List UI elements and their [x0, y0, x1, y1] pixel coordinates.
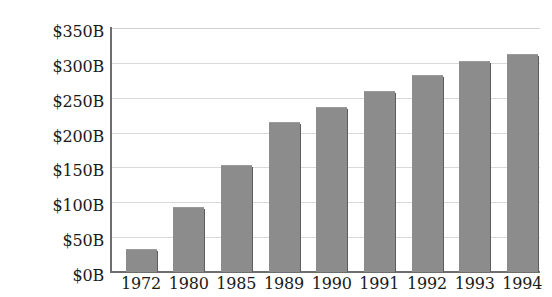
x-tick-label-1991: 1991 [356, 274, 404, 293]
x-tick-label-1980: 1980 [165, 274, 213, 293]
y-tick-label-350: $350B [4, 22, 104, 41]
bar-1980[interactable] [173, 207, 204, 272]
bar-top-edge [316, 107, 347, 108]
bar-1992[interactable] [412, 75, 443, 272]
bar-group [221, 28, 252, 272]
bar-top-edge [126, 249, 157, 250]
bar-top-edge [221, 165, 252, 166]
bar-top-edge [507, 54, 538, 55]
bar-group [459, 28, 490, 272]
x-tick-label-1972: 1972 [117, 274, 165, 293]
y-tick-label-150: $150B [4, 161, 104, 180]
x-tick-label-1990: 1990 [308, 274, 356, 293]
bar-top-edge [269, 122, 300, 123]
bar-chart-figure: $350B $300B $250B $200B $150B $100B $50B… [0, 0, 552, 297]
bar-1990[interactable] [316, 107, 347, 272]
bar-group [364, 28, 395, 272]
bar-1989[interactable] [269, 122, 300, 272]
y-tick-label-200: $200B [4, 126, 104, 145]
x-tick-label-1992: 1992 [403, 274, 451, 293]
bar-1993[interactable] [459, 61, 490, 272]
x-axis-tick-labels: 197219801985198919901991199219931994 [111, 274, 540, 297]
x-tick-label-1985: 1985 [213, 274, 261, 293]
bar-group [126, 28, 157, 272]
y-tick-label-0: $0B [4, 266, 104, 285]
bar-group [316, 28, 347, 272]
bar-group [412, 28, 443, 272]
x-tick-label-1993: 1993 [451, 274, 499, 293]
bar-1994[interactable] [507, 54, 538, 272]
bar-top-edge [412, 75, 443, 76]
bar-top-edge [173, 207, 204, 208]
x-tick-label-1989: 1989 [260, 274, 308, 293]
bar-top-edge [364, 91, 395, 92]
bar-1972[interactable] [126, 249, 157, 272]
bar-1991[interactable] [364, 91, 395, 272]
bar-group [269, 28, 300, 272]
y-axis-tick-labels: $350B $300B $250B $200B $150B $100B $50B… [0, 0, 104, 297]
y-tick-label-250: $250B [4, 91, 104, 110]
y-tick-label-100: $100B [4, 196, 104, 215]
bar-group [173, 28, 204, 272]
x-tick-label-1994: 1994 [499, 274, 547, 293]
bar-1985[interactable] [221, 165, 252, 272]
bar-group [507, 28, 538, 272]
bar-top-edge [459, 61, 490, 62]
y-tick-label-50: $50B [4, 231, 104, 250]
y-tick-label-300: $300B [4, 56, 104, 75]
bars-layer [111, 28, 540, 272]
